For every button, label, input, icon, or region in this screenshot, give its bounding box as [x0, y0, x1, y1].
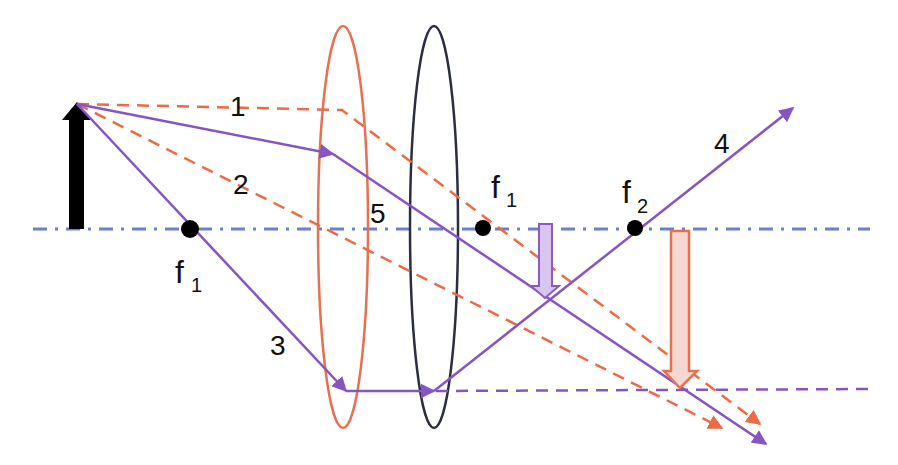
ray-label-4: 4 — [714, 128, 730, 159]
optics-diagram: 1 2 3 4 5 f 1 f 1 f 2 — [0, 0, 898, 465]
focal-label-f2: f 2 — [622, 174, 648, 217]
final-image-arrow — [664, 231, 697, 388]
ray-label-1: 1 — [230, 91, 246, 122]
svg-text:2: 2 — [637, 195, 648, 217]
focal-point-f1-right — [475, 220, 491, 236]
ray-3-extension — [436, 389, 872, 391]
focal-point-f2 — [627, 220, 643, 236]
focal-label-f1-right: f 1 — [491, 169, 517, 211]
ray-3-segment-a — [77, 104, 346, 391]
ray-label-2: 2 — [233, 169, 249, 200]
object-arrow — [62, 102, 91, 229]
ray-label-3: 3 — [270, 330, 286, 361]
svg-text:f: f — [622, 174, 631, 210]
intermediate-image-arrow — [531, 224, 559, 298]
ray-4-line — [434, 108, 793, 391]
svg-text:f: f — [175, 254, 184, 290]
svg-text:1: 1 — [506, 189, 517, 211]
svg-text:1: 1 — [191, 274, 202, 296]
focal-label-f1-left: f 1 — [175, 254, 202, 296]
lens-2 — [410, 26, 458, 428]
ray-label-5: 5 — [370, 198, 386, 229]
svg-text:f: f — [491, 169, 500, 205]
ray-2-line — [77, 104, 722, 428]
focal-point-f1-left — [181, 220, 199, 238]
